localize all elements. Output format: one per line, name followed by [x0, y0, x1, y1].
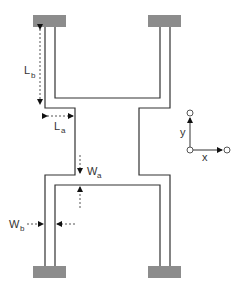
axis-x-node — [224, 147, 230, 153]
dimension-wa: W a — [80, 155, 102, 208]
label-wb-sub: b — [20, 224, 25, 233]
label-la-main: L — [54, 120, 60, 132]
label-wa-sub: a — [97, 171, 102, 180]
label-lb-sub: b — [31, 71, 36, 80]
axis-origin-node — [187, 147, 193, 153]
dimension-lb: L b — [24, 29, 40, 104]
anchor-bottom-right — [148, 266, 181, 278]
dimension-la: L a — [47, 116, 73, 135]
anchor-bottom-left — [33, 266, 66, 278]
label-wb-main: W — [9, 218, 20, 230]
dimension-wb: W b — [9, 218, 75, 233]
axis-x-label: x — [202, 151, 208, 163]
spring-diagram: L b L a W a W b y x — [0, 0, 240, 293]
anchor-top-right — [148, 15, 181, 27]
label-la-sub: a — [61, 126, 66, 135]
axis-y-node — [187, 110, 193, 116]
label-lb-main: L — [24, 64, 30, 76]
coordinate-axes: y x — [180, 110, 230, 163]
anchor-top-left — [33, 15, 66, 27]
spring-structure — [45, 27, 170, 266]
outer-contour — [45, 27, 170, 266]
axis-y-label: y — [180, 126, 186, 138]
